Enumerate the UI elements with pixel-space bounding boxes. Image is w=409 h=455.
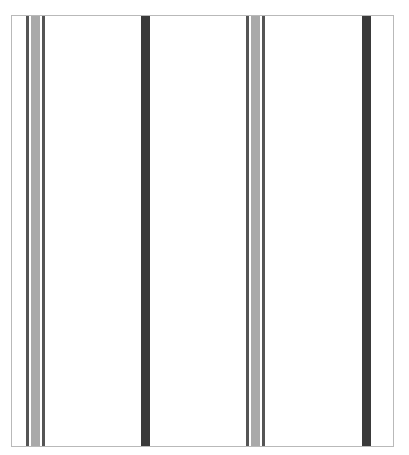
solid-bar-1 bbox=[141, 16, 150, 446]
stripe-group-1-right-line bbox=[42, 16, 45, 446]
solid-bar-2 bbox=[362, 16, 371, 446]
stripe-group-1-center-band bbox=[31, 16, 40, 446]
stripe-group-1-left-line bbox=[26, 16, 29, 446]
stripe-group-2-center-band bbox=[251, 16, 260, 446]
figure-frame bbox=[11, 15, 394, 447]
stripe-group-2-right-line bbox=[262, 16, 265, 446]
stripe-group-2-left-line bbox=[246, 16, 249, 446]
figure-canvas bbox=[0, 0, 409, 455]
